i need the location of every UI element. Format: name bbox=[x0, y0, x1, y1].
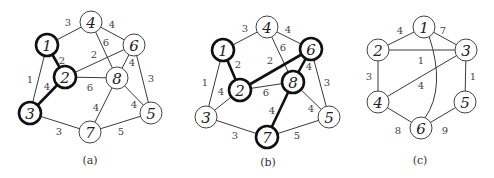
edges bbox=[378, 27, 466, 128]
node-label: 5 bbox=[324, 109, 334, 127]
node-label: 5 bbox=[460, 94, 470, 112]
node-label: 2 bbox=[234, 82, 245, 100]
node-3: 3 bbox=[455, 39, 477, 61]
node-4: 4 bbox=[80, 11, 102, 33]
edge-weight-2-3: 4 bbox=[218, 86, 224, 97]
node-label: 7 bbox=[262, 129, 272, 147]
nodes: 12345678 bbox=[195, 16, 340, 148]
node-4: 4 bbox=[256, 16, 278, 38]
node-label: 8 bbox=[112, 70, 122, 88]
graph-c: 471341895123456(c) bbox=[366, 16, 477, 167]
edge-weight-1-2: 2 bbox=[235, 59, 241, 70]
node-5: 5 bbox=[454, 91, 476, 113]
edge-weight-6-5: 3 bbox=[148, 73, 154, 84]
node-5: 5 bbox=[140, 102, 162, 124]
node-label: 5 bbox=[146, 105, 156, 123]
edge-weight-2-8: 6 bbox=[87, 82, 93, 93]
node-label: 3 bbox=[461, 42, 471, 60]
node-label: 4 bbox=[85, 14, 96, 32]
node-label: 2 bbox=[59, 69, 70, 87]
edge-weight-7-5: 5 bbox=[294, 130, 300, 141]
edge-weight-1-3: 1 bbox=[202, 77, 208, 88]
edge-weight-1-2: 2 bbox=[59, 55, 65, 66]
node-label: 2 bbox=[372, 42, 383, 60]
node-8: 8 bbox=[106, 67, 128, 89]
node-1: 1 bbox=[36, 34, 58, 56]
node-1: 1 bbox=[413, 16, 435, 38]
node-8: 8 bbox=[282, 71, 304, 93]
edge-weight-3-5: 1 bbox=[470, 71, 476, 82]
caption-c: (c) bbox=[413, 154, 428, 167]
edge-weight-8-5: 4 bbox=[131, 99, 137, 110]
edge-1-6 bbox=[425, 36, 437, 118]
edge-weight-8-5: 4 bbox=[308, 103, 314, 114]
node-label: 1 bbox=[419, 19, 429, 37]
edge-weight-3-7: 3 bbox=[56, 126, 62, 137]
edge-weight-3-7: 3 bbox=[232, 130, 238, 141]
edge-weight-1-3: 7 bbox=[440, 25, 446, 36]
edge-weight-2-3: 1 bbox=[418, 55, 424, 66]
node-label: 6 bbox=[306, 41, 316, 59]
node-label: 6 bbox=[416, 120, 426, 138]
edge-weight-5-6: 9 bbox=[442, 125, 448, 136]
node-label: 3 bbox=[25, 105, 35, 123]
node-6: 6 bbox=[410, 117, 432, 139]
edge-weight-1-2: 4 bbox=[397, 25, 403, 36]
edge-weight-1-3: 1 bbox=[27, 74, 33, 85]
node-2: 2 bbox=[229, 79, 251, 101]
edge-weight-8-7: 4 bbox=[93, 102, 99, 113]
edge-weight-4-6: 8 bbox=[395, 125, 401, 136]
edge-weight-2-4: 3 bbox=[366, 71, 372, 82]
edge-weight-2-3: 4 bbox=[44, 81, 50, 92]
edge-weight-2-6: 2 bbox=[91, 49, 97, 60]
node-3: 3 bbox=[19, 102, 41, 124]
caption-b: (b) bbox=[260, 156, 276, 169]
node-6: 6 bbox=[300, 38, 322, 60]
edge-weight-6-5: 3 bbox=[324, 77, 330, 88]
edge-weight-4-8: 6 bbox=[280, 42, 286, 53]
node-label: 4 bbox=[261, 19, 272, 37]
edge-weight-2-8: 6 bbox=[263, 87, 269, 98]
edge-weight-4-6: 4 bbox=[285, 24, 291, 35]
nodes: 123456 bbox=[367, 16, 477, 139]
edge-weight-8-7: 4 bbox=[269, 105, 275, 116]
node-1: 1 bbox=[212, 39, 234, 61]
node-3: 3 bbox=[195, 106, 217, 128]
node-label: 8 bbox=[288, 74, 298, 92]
node-6: 6 bbox=[123, 34, 145, 56]
node-label: 3 bbox=[201, 109, 211, 127]
node-7: 7 bbox=[79, 121, 101, 143]
node-4: 4 bbox=[367, 91, 389, 113]
graph-b: 3462214643443512345678(b) bbox=[195, 16, 340, 169]
edge-weight-3-4: 4 bbox=[418, 80, 424, 91]
edge-weight-4-8: 6 bbox=[103, 37, 109, 48]
edge-weight-6-8: 4 bbox=[306, 61, 312, 72]
node-label: 4 bbox=[372, 94, 383, 112]
node-label: 1 bbox=[218, 42, 228, 60]
caption-a: (a) bbox=[82, 154, 97, 167]
edge-weight-1-4: 3 bbox=[65, 17, 71, 28]
graph-a: 3462214643443512345678(a) bbox=[19, 11, 162, 167]
node-label: 1 bbox=[42, 37, 52, 55]
edge-weight-4-6: 4 bbox=[109, 19, 115, 30]
node-5: 5 bbox=[318, 106, 340, 128]
edge-weight-6-8: 4 bbox=[129, 57, 135, 68]
edge-weight-1-4: 3 bbox=[242, 23, 248, 34]
node-2: 2 bbox=[367, 39, 389, 61]
node-label: 6 bbox=[129, 37, 139, 55]
edge-weight-7-5: 5 bbox=[118, 126, 124, 137]
edge-weight-2-6: 2 bbox=[267, 55, 273, 66]
node-7: 7 bbox=[256, 126, 278, 148]
node-2: 2 bbox=[54, 66, 76, 88]
graph-diagram: 3462214643443512345678(a)346221464344351… bbox=[0, 0, 494, 178]
node-label: 7 bbox=[85, 124, 95, 142]
